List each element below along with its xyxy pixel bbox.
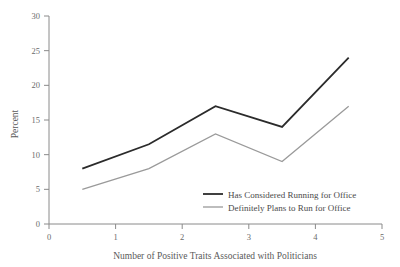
x-tick-label: 0 — [47, 232, 51, 242]
y-tick-label: 0 — [36, 219, 40, 229]
y-tick-label: 30 — [32, 11, 41, 21]
x-axis-title: Number of Positive Traits Associated wit… — [113, 251, 317, 261]
y-tick-label: 15 — [32, 115, 41, 125]
y-tick-label: 5 — [36, 184, 40, 194]
series-line-0 — [82, 58, 348, 169]
y-axis-title: Percent — [10, 109, 20, 138]
legend-label-0: Has Considered Running for Office — [228, 190, 356, 200]
x-tick-label: 4 — [313, 232, 318, 242]
x-tick-label: 5 — [380, 232, 384, 242]
x-tick-label: 1 — [113, 232, 117, 242]
chart-legend: Has Considered Running for OfficeDefinit… — [203, 190, 356, 213]
y-tick-label: 25 — [32, 46, 41, 56]
data-series-group — [82, 58, 348, 190]
legend-label-1: Definitely Plans to Run for Office — [228, 203, 351, 213]
x-tick-label: 3 — [247, 232, 251, 242]
series-line-1 — [82, 106, 348, 189]
y-tick-label: 10 — [32, 150, 41, 160]
x-axis-ticks: 012345 — [47, 224, 384, 242]
chart-container: Percent 051015202530 012345 Number of Po… — [0, 0, 400, 267]
line-chart: Percent 051015202530 012345 Number of Po… — [0, 0, 400, 267]
y-axis-ticks: 051015202530 — [32, 11, 50, 229]
y-tick-label: 20 — [32, 80, 41, 90]
x-tick-label: 2 — [180, 232, 184, 242]
